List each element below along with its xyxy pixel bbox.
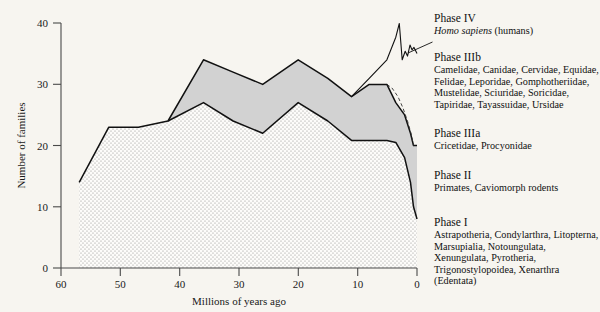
x-tick-label-40: 40 — [174, 278, 186, 290]
annotation-phase-i: Phase I Astrapotheria, Condylarthra, Lit… — [434, 216, 600, 287]
annotation-phase-i-body: Astrapotheria, Condylarthra, Litopterna,… — [434, 229, 600, 287]
x-tick-label-0: 0 — [414, 278, 420, 290]
annotation-phase-iiib-heading: Phase IIIb — [434, 51, 600, 64]
y-tick-label-0: 0 — [43, 262, 49, 274]
annotation-phase-i-heading: Phase I — [434, 216, 600, 229]
x-tick-label-50: 50 — [115, 278, 127, 290]
annotation-phase-iiib-body: Camelidae, Canidae, Cervidae, Equidae, F… — [434, 64, 600, 110]
y-axis-title: Number of families — [15, 102, 27, 188]
x-tick-label-60: 60 — [56, 278, 68, 290]
y-tick-label-30: 30 — [37, 78, 49, 90]
y-tick-label-20: 20 — [37, 140, 49, 152]
leader-line-phase-iv — [408, 42, 433, 53]
x-tick-label-30: 30 — [234, 278, 246, 290]
annotation-phase-iv-common: (humans) — [492, 25, 533, 36]
x-tick-label-20: 20 — [293, 278, 305, 290]
y-tick-label-10: 10 — [37, 201, 49, 213]
y-tick-label-40: 40 — [37, 17, 49, 29]
annotation-phase-iiia-heading: Phase IIIa — [434, 127, 600, 140]
annotation-phase-ii: Phase II Primates, Caviomorph rodents — [434, 169, 600, 194]
phase-annotations: Phase IV Homo sapiens (humans) Phase III… — [434, 0, 598, 312]
x-tick-label-10: 10 — [352, 278, 364, 290]
annotation-phase-ii-body: Primates, Caviomorph rodents — [434, 182, 600, 194]
annotation-phase-ii-heading: Phase II — [434, 169, 600, 182]
annotation-phase-iiia: Phase IIIa Cricetidae, Procyonidae — [434, 127, 600, 152]
annotation-phase-iv-body: Homo sapiens (humans) — [434, 25, 600, 37]
annotation-phase-iiia-body: Cricetidae, Procyonidae — [434, 140, 600, 152]
x-axis-title: Millions of years ago — [192, 295, 286, 307]
annotation-phase-iv: Phase IV Homo sapiens (humans) — [434, 12, 600, 37]
annotation-phase-iiib: Phase IIIb Camelidae, Canidae, Cervidae,… — [434, 51, 600, 110]
annotation-phase-iv-heading: Phase IV — [434, 12, 600, 25]
annotation-phase-iv-species: Homo sapiens — [434, 25, 492, 36]
